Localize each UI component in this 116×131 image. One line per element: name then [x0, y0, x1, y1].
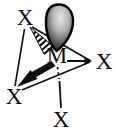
ligand-label-right: X	[96, 49, 113, 74]
bond-metal-bottom-solid	[60, 81, 62, 108]
bond-metal-bottom-dashed	[58, 67, 60, 79]
metal-center-label: M	[47, 43, 67, 68]
ligand-label-bottom-left: X	[6, 84, 23, 109]
ligand-label-bottom-axial: X	[53, 107, 70, 131]
structure-canvas: M X X X X	[0, 0, 116, 131]
ligand-label-top-left: X	[17, 5, 34, 30]
molecular-structure-figure: M X X X X	[0, 0, 116, 131]
polyhedron-edge-left	[15, 29, 25, 86]
